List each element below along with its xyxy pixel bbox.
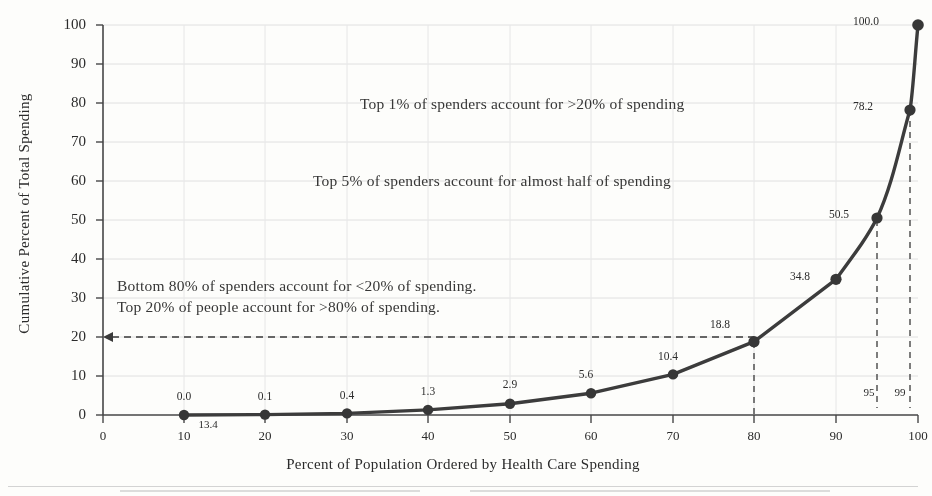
page-rule [8,486,918,487]
y-tick-70: 70 [52,133,86,150]
y-tick-0: 0 [52,406,86,423]
guide-lines-vertical [754,110,910,415]
data-label-70: 10.4 [648,350,688,362]
data-label-90: 34.8 [780,270,820,282]
x-tick-80: 80 [734,428,774,444]
y-tick-100: 100 [52,16,86,33]
x-tick-90: 90 [816,428,856,444]
annotation-bottom-80-percent-line1: Bottom 80% of spenders account for <20% … [117,277,477,295]
x-tick-60: 60 [571,428,611,444]
data-point-99 [904,104,915,115]
data-point-30 [342,408,352,418]
data-point-60 [586,388,596,398]
data-label-50: 2.9 [490,378,530,390]
x-tick-40: 40 [408,428,448,444]
data-label-stray-13-4: 13.4 [188,418,228,430]
scan-speck-2 [470,490,830,492]
y-tick-60: 60 [52,172,86,189]
x-tick-100: 100 [898,428,932,444]
scan-speck-1 [120,490,420,492]
y-tick-10: 10 [52,367,86,384]
data-label-40: 1.3 [408,385,448,397]
data-point-50 [505,399,515,409]
data-label-60: 5.6 [566,368,606,380]
data-point-70 [668,369,678,379]
x-tick-50: 50 [490,428,530,444]
guide-label-99: 99 [888,386,912,398]
data-point-100 [912,19,924,31]
x-tick-10: 10 [164,428,204,444]
y-tick-50: 50 [52,211,86,228]
annotation-top-1-percent: Top 1% of spenders account for >20% of s… [360,95,684,113]
annotation-top-5-percent: Top 5% of spenders account for almost ha… [313,172,671,190]
data-label-80: 18.8 [700,318,740,330]
y-tick-80: 80 [52,94,86,111]
annotation-bottom-80-percent-line2: Top 20% of people account for >80% of sp… [117,298,440,316]
data-label-10: 0.0 [164,390,204,402]
x-tick-20: 20 [245,428,285,444]
y-axis-title: Cumulative Percent of Total Spending [16,64,33,364]
data-label-30: 0.4 [327,389,367,401]
x-axis-title: Percent of Population Ordered by Health … [0,456,926,473]
data-label-95: 50.5 [819,208,859,220]
data-label-99: 78.2 [843,100,883,112]
data-point-95 [871,212,882,223]
y-tick-30: 30 [52,289,86,306]
y-tick-90: 90 [52,55,86,72]
data-label-100: 100.0 [846,15,886,27]
x-tick-70: 70 [653,428,693,444]
x-tick-0: 0 [83,428,123,444]
data-point-90 [830,274,841,285]
y-tick-40: 40 [52,250,86,267]
data-point-80 [748,336,759,347]
axis-ticks-y [96,25,103,415]
data-point-40 [423,405,433,415]
x-tick-30: 30 [327,428,367,444]
guide-label-95: 95 [857,386,881,398]
data-label-20: 0.1 [245,390,285,402]
y-tick-20: 20 [52,328,86,345]
data-point-20 [260,409,270,419]
